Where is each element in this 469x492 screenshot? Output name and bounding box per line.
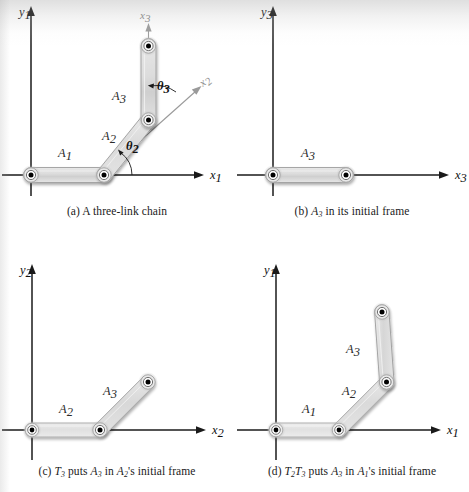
- link-label-d-a3: A3: [345, 342, 360, 359]
- panel-c-caption-frame: A2: [117, 465, 128, 477]
- joint-a-origin: [21, 165, 41, 185]
- axis-label-y2: y2: [18, 263, 32, 280]
- joint-d-elbow: [377, 372, 397, 392]
- panel-c-diagram: y2 x2 A2 A3: [0, 235, 234, 467]
- link-label-d-a1: A1: [301, 402, 316, 419]
- panel-a-diagram: y1 x1 x3 x2 A1 A2 A3 θ2: [0, 0, 234, 200]
- axis-label-y3: y3: [259, 5, 273, 22]
- panel-d-caption-transform: T2T3: [285, 465, 306, 477]
- link-label-b-a3: A3: [300, 146, 315, 163]
- axis-label-x3-aux: x3: [139, 9, 151, 24]
- axis-label-x1: x1: [209, 168, 222, 185]
- panel-b-caption: (b) A3 in its initial frame: [235, 205, 469, 219]
- panel-a-caption-text: A three-link chain: [82, 205, 167, 217]
- panel-c-caption-prefix: (c): [38, 465, 51, 477]
- joint-b-tip: [336, 165, 356, 185]
- panel-c-caption: (c) T3 puts A3 in A2's initial frame: [0, 465, 234, 479]
- joint-a-tip: [139, 36, 159, 56]
- joint-d-origin: [267, 421, 286, 440]
- panel-d-caption-tail: 's initial frame: [369, 465, 437, 477]
- joint-b-origin: [263, 165, 283, 185]
- joint-c-origin: [23, 421, 42, 440]
- axis-label-x1-d: x1: [446, 423, 459, 440]
- link-label-a3: A3: [111, 89, 126, 106]
- panel-c-caption-tail: 's initial frame: [128, 465, 196, 477]
- panel-c-t3-transform: y2 x2 A2 A3 (c) T3 puts A3 in A2's initi…: [0, 235, 234, 467]
- panel-d-t2t3-transform: y1 x1 A1 A2 A3 (d) T2T3 puts A3 in A1's …: [235, 235, 469, 467]
- joint-a-middle: [94, 165, 114, 185]
- panel-c-caption-mid: in: [105, 465, 114, 477]
- panel-c-caption-verb: puts: [68, 465, 88, 477]
- panel-c-caption-subject: A3: [91, 465, 102, 477]
- panel-d-caption-frame: A1: [357, 465, 368, 477]
- joint-d-middle: [330, 421, 349, 440]
- panel-b-caption-link: A3: [311, 205, 322, 217]
- joint-d-tip: [372, 302, 392, 322]
- joint-c-middle: [90, 420, 110, 440]
- link-label-a1: A1: [57, 146, 72, 163]
- axis-label-y1: y1: [17, 5, 31, 22]
- panel-d-diagram: y1 x1 A1 A2 A3: [235, 235, 469, 467]
- panel-b-a3-initial-frame: y3 x3 A3 (b) A3 in its initial frame: [235, 0, 469, 200]
- panel-b-caption-prefix: (b): [295, 205, 309, 217]
- panel-d-caption-subject: A3: [331, 465, 342, 477]
- panel-a-caption: (a) A three-link chain: [0, 205, 234, 217]
- joint-c-tip: [138, 372, 158, 392]
- panel-d-caption: (d) T2T3 puts A3 in A1's initial frame: [235, 465, 469, 479]
- panel-d-caption-verb: puts: [309, 465, 329, 477]
- panel-d-caption-prefix: (d): [268, 465, 282, 477]
- panel-c-caption-transform: T3: [55, 465, 66, 477]
- axis-label-y1-d: y1: [262, 263, 276, 280]
- axis-label-x3: x3: [454, 168, 467, 185]
- link-label-d-a2: A2: [341, 384, 356, 401]
- axis-label-x2: x2: [211, 423, 224, 440]
- panel-d-caption-mid: in: [345, 465, 354, 477]
- joint-a-elbow: [139, 110, 159, 130]
- link-label-c-a2: A2: [58, 402, 73, 419]
- panel-a-caption-prefix: (a): [67, 205, 80, 217]
- link-label-a2: A2: [101, 129, 116, 146]
- angle-label-theta3: θ3: [157, 79, 170, 96]
- figure-page: y1 x1 x3 x2 A1 A2 A3 θ2: [0, 0, 469, 492]
- link-label-c-a3: A3: [102, 384, 117, 401]
- panel-a-three-link-chain: y1 x1 x3 x2 A1 A2 A3 θ2: [0, 0, 234, 200]
- panel-b-caption-text: in its initial frame: [325, 205, 409, 217]
- panel-b-diagram: y3 x3 A3: [235, 0, 469, 200]
